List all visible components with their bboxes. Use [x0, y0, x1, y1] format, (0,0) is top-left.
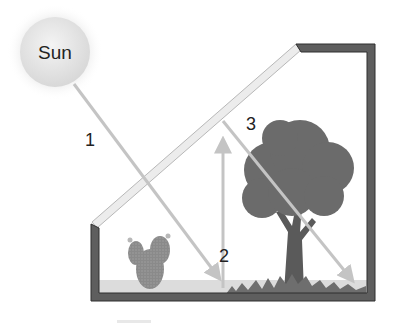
tree-foliage [242, 120, 354, 218]
sun-label: Sun [38, 42, 72, 63]
greenhouse-diagram: Sun 1 2 3 [0, 0, 394, 333]
ray-2-label: 2 [219, 246, 229, 266]
ray-1-label: 1 [85, 130, 95, 150]
sun: Sun [7, 4, 103, 100]
ray-3-label: 3 [246, 114, 256, 134]
tree [226, 120, 366, 294]
faint-mark [117, 320, 151, 323]
